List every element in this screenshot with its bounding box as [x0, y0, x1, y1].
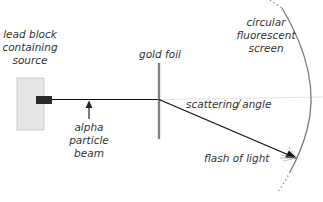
label-line: beam: [66, 147, 112, 160]
label-flash-of-light: flash of light: [204, 152, 280, 165]
label-gold-foil: gold foil: [130, 48, 190, 61]
label-line: screen: [226, 42, 306, 55]
rutherford-scattering-diagram: lead block containing source alpha parti…: [0, 0, 323, 202]
label-lead-block-source: lead block containing source: [2, 28, 58, 67]
beam-pointer-arrowhead-icon: [86, 101, 93, 109]
label-line: alpha: [66, 121, 112, 134]
label-line: gold foil: [130, 48, 190, 61]
fluorescent-screen-top-dotted: [270, 0, 282, 8]
label-alpha-particle-beam: alpha particle beam: [66, 121, 112, 160]
label-line: lead block: [2, 28, 58, 41]
label-line: containing: [2, 41, 58, 54]
label-line: fluorescent: [226, 29, 306, 42]
scattered-beam-arrowhead-icon: [285, 151, 297, 159]
label-line: particle: [66, 134, 112, 147]
label-fluorescent-screen: circular fluorescent screen: [226, 16, 306, 55]
label-scattering-angle: scattering angle: [186, 98, 296, 111]
label-line: source: [2, 54, 58, 67]
label-line: flash of light: [204, 152, 280, 165]
fluorescent-screen-bottom-dotted: [277, 172, 290, 193]
source-emitter: [36, 96, 52, 104]
label-line: scattering angle: [186, 98, 296, 111]
label-line: circular: [226, 16, 306, 29]
